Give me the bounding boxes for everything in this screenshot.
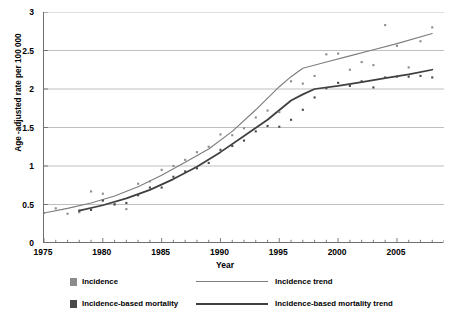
incidence-trend-line — [44, 34, 432, 213]
mortality-data-points — [78, 75, 433, 212]
mortality-swatch-icon — [70, 300, 77, 308]
gridlines — [44, 12, 444, 205]
x-tick-label: 1990 — [199, 247, 239, 257]
x-tick-label: 2000 — [317, 247, 357, 257]
incidence-trend-line-icon — [196, 281, 268, 282]
plot-area — [43, 12, 443, 243]
y-axis-title: Age -adjusted rate per 100 000 — [14, 23, 23, 163]
legend-label-mortality: Incidence-based mortality — [82, 299, 178, 308]
legend-entry-mortality: Incidence-based mortality — [70, 299, 178, 308]
y-tick-label: 3 — [0, 7, 34, 17]
plot-canvas — [44, 12, 444, 243]
incidence-swatch-icon — [70, 278, 77, 286]
legend-row-incidence: Incidence Incidence trend — [0, 277, 450, 292]
legend-label-mortality-trend: Incidence-based mortality trend — [275, 299, 393, 308]
chart-legend: Incidence Incidence trend Incidence-base… — [0, 277, 450, 318]
x-tick-label: 1985 — [141, 247, 181, 257]
legend-entry-incidence-trend: Incidence trend — [196, 277, 333, 286]
chart-figure: 3 2.5 2 1.5 1 0.5 0 Age -adjusted rate p… — [0, 0, 450, 318]
x-tick-label: 1980 — [82, 247, 122, 257]
mortality-trend-line-icon — [196, 303, 268, 305]
legend-entry-mortality-trend: Incidence-based mortality trend — [196, 299, 393, 308]
incidence-data-points — [44, 24, 433, 215]
x-tick-label: 1975 — [23, 247, 63, 257]
x-tick-label: 1995 — [258, 247, 298, 257]
y-tick-label: 0.5 — [0, 200, 34, 210]
legend-label-incidence-trend: Incidence trend — [275, 277, 333, 286]
legend-label-incidence: Incidence — [82, 277, 118, 286]
x-tick-label: 2005 — [376, 247, 416, 257]
legend-entry-incidence: Incidence — [70, 277, 118, 286]
y-tick-label: 1 — [0, 161, 34, 171]
legend-row-mortality: Incidence-based mortality Incidence-base… — [0, 299, 450, 314]
x-axis-title: Year — [0, 260, 450, 270]
